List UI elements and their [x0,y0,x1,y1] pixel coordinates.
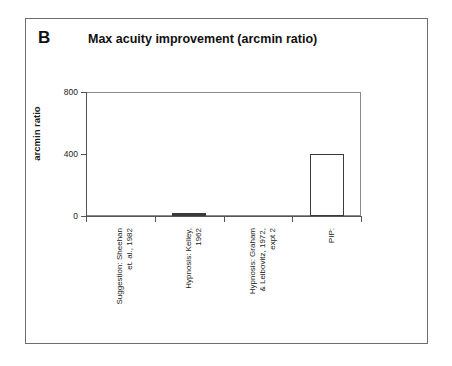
x-tick [155,217,156,222]
x-tick [292,217,293,222]
x-category-label-line: Suggestion: Sheehan [115,228,125,305]
y-axis-title: arcmin ratio [31,89,42,179]
x-tick [86,217,87,222]
x-category-label-line: Hypnosis: Kelley, [184,228,194,289]
y-tick-label: 800 [38,87,78,97]
bar [310,154,344,216]
x-tick [361,217,362,222]
x-category-label-line: & Leibovitz, 1972, [258,228,268,294]
x-category-label-line: expt 2 [268,228,278,294]
y-axis-line [86,92,87,217]
x-category-label-line: et. al., 1982 [125,228,135,305]
x-category-label-line: PIP: [327,228,337,243]
panel-label: B [38,28,50,48]
x-tick [224,217,225,222]
y-tick [81,154,86,155]
y-tick-label: 400 [38,149,78,159]
x-category-label-line: Hypnosis: Graham [248,228,258,294]
y-tick [81,92,86,93]
y-tick-label: 0 [38,211,78,221]
x-category-label-line: 1962 [194,228,204,289]
chart-title: Max acuity improvement (arcmin ratio) [88,32,317,46]
bar [172,213,206,216]
